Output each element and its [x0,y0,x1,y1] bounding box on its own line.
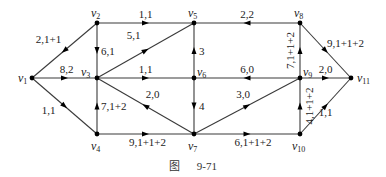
edge-label: 3,0 [236,88,250,100]
arrowhead-icon [298,47,303,54]
node-label-v2: v2 [91,6,100,21]
edge-label: 1,1 [42,104,56,116]
edge-label: 9,1+1+2 [327,37,364,49]
edge-label: 6,1+1+2 [234,136,271,148]
arrowhead-icon [61,76,68,81]
arrowhead-icon [322,76,329,81]
node-label-v4: v4 [91,139,100,154]
node-label-v6: v6 [197,65,206,80]
figure-caption: 图 9-71 [169,160,217,172]
arrowhead-icon [142,21,149,26]
edge-label: 9,1+1+2 [129,136,166,148]
edge-label: 6,1 [101,45,115,57]
node-label-v8: v8 [294,6,303,21]
arrowhead-icon [141,102,150,110]
node-label-v7: v7 [188,139,197,154]
node-v3 [95,76,100,81]
edge-label: 1,1 [319,106,333,118]
edge-label: 5,1 [127,29,141,41]
network-flow-diagram: 2,1+18,21,16,11,15,11,12,07,1+29,1+1+232… [0,0,386,177]
arrowhead-icon [95,103,100,110]
node-label-v3: v3 [81,65,90,80]
edge-label: 1,1 [139,8,153,20]
node-v7 [192,132,197,137]
arrowhead-icon [142,76,149,81]
edge-label: 8,2 [60,63,74,75]
node-v8 [298,21,303,26]
node-v11 [349,76,354,81]
arrowhead-icon [244,21,251,26]
node-label-v1: v1 [18,71,27,86]
edge-label: 2,1+1 [36,33,61,45]
caption-number: 9-71 [197,160,217,172]
edge-label: 2,0 [146,88,160,100]
node-v4 [95,132,100,137]
arrowhead-icon [141,47,150,55]
arrowhead-icon [192,47,197,54]
edge-label: 2,2 [240,8,254,20]
arrowhead-icon [192,103,197,110]
node-v2 [95,21,100,26]
arrowhead-icon [243,102,252,110]
node-v5 [192,21,197,26]
node-label-v10: v10 [292,139,305,154]
node-v10 [298,132,303,137]
caption-prefix: 图 [169,160,180,172]
node-label-v5: v5 [188,6,197,21]
edge-label: 4 [199,100,205,112]
edge-label: 7,1+1+2 [284,32,296,69]
arrowhead-icon [244,76,251,81]
node-v6 [192,76,197,81]
edge-label: 6,0 [240,63,254,75]
arrowhead-icon [95,47,100,54]
node-v1 [30,76,35,81]
edge-label: 4,1+1+2 [303,87,315,124]
node-v9 [298,76,303,81]
edge-label: 7,1+2 [101,100,126,112]
edge-label: 2,0 [319,63,333,75]
node-label-v11: v11 [357,71,370,86]
edge-label: 1,1 [139,63,153,75]
node-label-v9: v9 [303,65,312,80]
edge-label: 3 [199,45,205,57]
